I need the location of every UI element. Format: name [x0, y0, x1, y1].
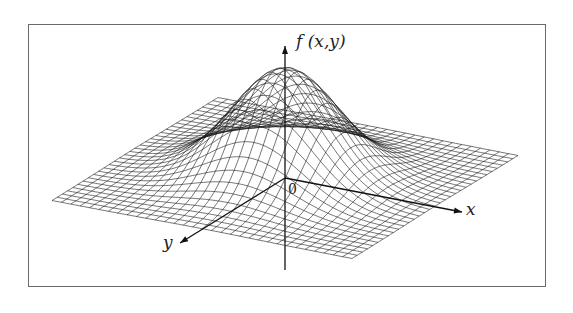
mesh-line	[258, 132, 424, 241]
mesh-line	[183, 72, 349, 225]
z-axis-label: f (x,y)	[296, 33, 346, 50]
mesh-line	[104, 142, 404, 226]
origin-label: 0	[288, 182, 297, 196]
mesh-line	[61, 99, 227, 202]
mesh-line	[71, 101, 237, 204]
y-axis-arrow	[180, 178, 285, 243]
surface-plot	[0, 0, 573, 313]
y-axis-label: y	[163, 234, 173, 251]
mesh-line	[171, 112, 471, 185]
mesh-line	[80, 103, 246, 206]
x-axis-label: x	[466, 201, 476, 218]
